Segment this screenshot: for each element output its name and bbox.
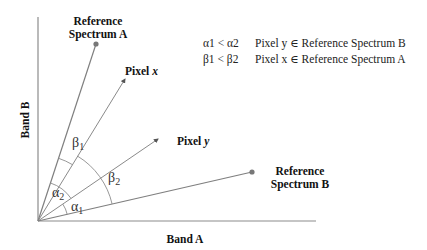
pixel-y-label: Pixel y [177, 135, 210, 148]
y-axis-label: Band B [19, 101, 31, 138]
ref-a-label-2: Spectrum A [69, 28, 128, 41]
legend-result-1: Pixel y ∈ Reference Spectrum B [255, 37, 406, 50]
alpha2-label: α2 [52, 185, 64, 202]
ref-a-vector [38, 44, 96, 221]
legend-condition-2: β1 < β2 [203, 53, 239, 66]
ref-b-label-2: Spectrum B [271, 178, 330, 191]
legend-result-2: Pixel x ∈ Reference Spectrum A [255, 53, 406, 66]
beta1-label: β1 [72, 135, 84, 152]
ref-a-label: Reference [74, 15, 123, 27]
ref-b-label: Reference [276, 165, 325, 177]
beta2-arc [78, 156, 112, 204]
pixel-x-label: Pixel x [125, 65, 158, 77]
x-axis-label: Band A [167, 233, 204, 245]
alpha1-arc [63, 204, 67, 214]
spectral-angle-diagram: α1 α2 β1 β2 Reference Spectrum A Pixel x… [0, 0, 427, 250]
pixel-y-vector [38, 139, 158, 221]
beta1-arc [59, 158, 73, 164]
alpha1-label: α1 [71, 199, 83, 216]
beta2-label: β2 [108, 170, 120, 187]
legend: α1 < α2 Pixel y ∈ Reference Spectrum B β… [203, 37, 406, 66]
legend-condition-1: α1 < α2 [203, 37, 239, 49]
ref-a-dot [93, 41, 98, 46]
ref-b-dot [249, 169, 254, 174]
